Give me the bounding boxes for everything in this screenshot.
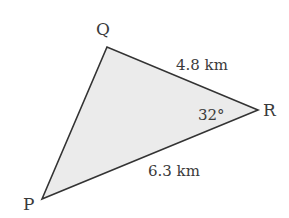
triangle-pqr-diagram: Q R P 4.8 km 6.3 km 32° xyxy=(0,0,289,218)
vertex-label-p: P xyxy=(23,194,34,214)
side-label-qr: 4.8 km xyxy=(176,56,228,74)
angle-label-r: 32° xyxy=(198,106,225,124)
vertex-label-r: R xyxy=(263,100,277,120)
side-label-pr: 6.3 km xyxy=(148,162,200,180)
vertex-label-q: Q xyxy=(96,19,110,39)
